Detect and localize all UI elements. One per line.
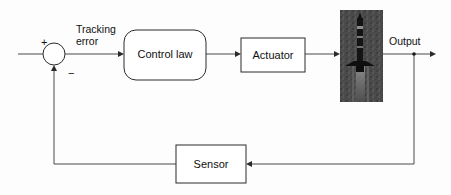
plant-photo-rocket [340, 10, 383, 102]
arrowhead-output [430, 51, 436, 57]
arrowhead-control-law-input [118, 51, 124, 57]
output-label: Output [389, 35, 421, 47]
arrowhead-sensor-input [246, 161, 252, 167]
rocket-exhaust-streak-left [352, 66, 354, 102]
diagram-canvas: + − Control law Actuator [0, 0, 451, 195]
arrowhead-actuator-input [235, 51, 241, 57]
summing-junction-minus-sign: − [68, 67, 74, 79]
block-actuator-label: Actuator [253, 49, 294, 61]
rocket-nozzle [356, 66, 364, 72]
block-sensor-label: Sensor [194, 158, 229, 170]
block-control-law-label: Control law [137, 48, 192, 60]
summing-junction-plus-sign: + [41, 36, 47, 48]
rocket-band-middle [357, 36, 363, 38]
arrowhead-plant-input [334, 51, 340, 57]
rocket-exhaust-streak-right [367, 66, 369, 102]
tracking-error-label-line2: error [76, 35, 99, 47]
rocket-band-lower [357, 46, 363, 48]
tracking-error-label-line1: Tracking [76, 23, 116, 35]
rocket-band-upper [357, 26, 363, 29]
control-loop-diagram: + − Control law Actuator [0, 0, 451, 195]
arrowhead-junction-feedback-input [51, 65, 57, 71]
rocket-body [357, 18, 363, 68]
output-tap-dot [412, 52, 416, 56]
